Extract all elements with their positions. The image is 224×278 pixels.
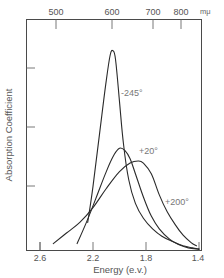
left-axis [27,68,41,250]
top-axis-unit: mμ [200,7,211,16]
absorption-chart: 500 600 700 800 mμ 2.6 2.2 1.8 1.4 Energ… [0,0,224,278]
top-tick-label: 600 [104,7,119,17]
x-axis-title: Energy (e.v.) [93,264,147,275]
top-tick-label: 800 [173,7,188,17]
curve-label-minus-245: -245° [121,88,143,98]
bottom-tick-label: 2.2 [87,253,100,263]
curve-label-plus-20: +20° [139,146,158,156]
bottom-tick-label: 1.4 [192,253,205,263]
y-axis-title: Absorption Coefficient [3,88,14,181]
bottom-tick-label: 2.6 [34,253,47,263]
top-tick-label: 700 [145,7,160,17]
bottom-axis: 2.6 2.2 1.8 1.4 [34,242,205,263]
curve-label-plus-200: +200° [165,197,189,207]
top-tick-label: 500 [48,7,63,17]
bottom-tick-label: 1.8 [140,253,153,263]
plot-frame [27,20,202,251]
top-axis: 500 600 700 800 mμ [48,7,210,29]
